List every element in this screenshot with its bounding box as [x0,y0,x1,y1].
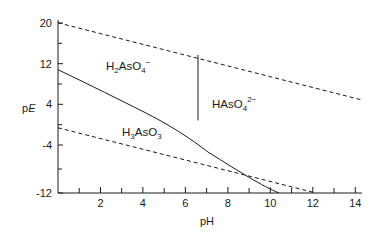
species-label-haso4-2-minus: HAsO42− [212,95,257,113]
series-redox-boundary-As-V-As-III [58,70,279,193]
x-axis-tick-labels: 2 4 6 8 10 12 14 [97,197,361,209]
species-haso4-sub4: 4 [243,104,248,113]
species-h3aso3-base2: AsO [135,126,157,138]
x-tick-label-14: 14 [349,197,361,209]
species-h2aso4-sub4: 4 [141,66,146,75]
y-tick-label-12: 12 [40,58,52,70]
y-axis-title: pE [22,102,36,114]
y-axis-ticks [58,23,63,193]
species-label-h2aso4-minus: H2AsO4− [106,58,151,75]
x-tick-label-12: 12 [307,197,319,209]
y-tick-label-neg12: -12 [36,187,52,199]
y-axis-title-symbol: E [28,102,36,114]
series-water-oxidation-boundary [58,23,362,100]
species-h2aso4-base2: AsO [119,60,141,72]
y-tick-label-4: 4 [46,98,52,110]
axes-group [58,20,362,193]
species-haso4-charge: 2− [247,95,256,104]
pourbaix-diagram-arsenic: 20 12 4 -4 -12 2 4 6 8 10 12 14 pH pE [0,0,380,238]
y-axis-tick-labels: 20 12 4 -4 -12 [36,17,52,199]
x-tick-label-10: 10 [264,197,276,209]
series-water-reduction-boundary [58,128,316,193]
y-tick-label-20: 20 [40,17,52,29]
x-axis-ticks [79,187,355,193]
species-h2aso4-charge: − [146,58,151,67]
x-tick-label-2: 2 [97,197,103,209]
x-tick-label-6: 6 [182,197,188,209]
x-axis-title: pH [200,215,214,227]
species-haso4-base: HAsO [212,98,243,110]
species-label-h3aso3: H3AsO3 [122,126,162,141]
species-h3aso3-sub3b: 3 [157,132,162,141]
x-tick-label-8: 8 [225,197,231,209]
species-h2aso4-base1: H [106,60,114,72]
y-tick-label-neg4: -4 [42,139,52,151]
x-tick-label-4: 4 [140,197,146,209]
species-h3aso3-base1: H [122,126,130,138]
